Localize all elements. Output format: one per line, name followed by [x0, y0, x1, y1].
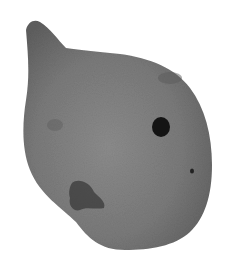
stone-body [23, 21, 212, 250]
small-pit [190, 169, 194, 174]
stone-artifact [0, 0, 239, 263]
photo [0, 0, 239, 263]
hole [152, 117, 170, 137]
shadow-spot [47, 119, 63, 131]
shadow-spot [158, 72, 182, 84]
